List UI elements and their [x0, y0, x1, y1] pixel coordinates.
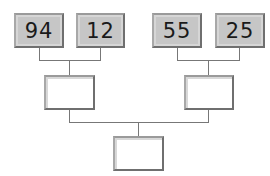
connector-line — [69, 60, 70, 75]
middle-box-left[interactable] — [44, 75, 95, 110]
leaf-box-4: 25 — [215, 13, 265, 48]
leaf-value: 55 — [163, 19, 192, 43]
connector-line — [177, 47, 178, 61]
connector-line — [239, 47, 240, 61]
leaf-box-2: 12 — [76, 13, 125, 48]
connector-line — [69, 109, 70, 123]
connector-line — [69, 122, 209, 123]
leaf-box-3: 55 — [152, 13, 202, 48]
connector-line — [208, 60, 209, 75]
connector-line — [39, 60, 101, 61]
connector-line — [138, 122, 139, 136]
connector-line — [39, 47, 40, 61]
connector-line — [100, 47, 101, 61]
leaf-value: 12 — [86, 19, 115, 43]
connector-line — [208, 109, 209, 123]
leaf-value: 94 — [25, 19, 54, 43]
leaf-value: 25 — [226, 19, 255, 43]
root-box[interactable] — [113, 136, 164, 171]
leaf-box-1: 94 — [14, 13, 64, 48]
middle-box-right[interactable] — [184, 75, 234, 110]
